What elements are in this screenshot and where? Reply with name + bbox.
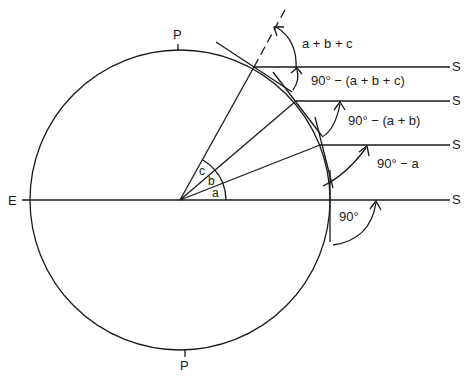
label-pole-top: P (173, 28, 182, 41)
label-sun-2: S (452, 138, 461, 151)
annotation-90: 90° (339, 210, 359, 223)
arrow-arc-90-abc (293, 70, 298, 90)
angle-arc-a (223, 183, 226, 200)
angle-arc-b (215, 170, 223, 183)
annotation-sum-abc: a + b + c (302, 37, 353, 50)
label-pole-bottom: P (180, 359, 189, 372)
radius-abc (180, 67, 254, 200)
label-sun-3: S (452, 94, 461, 107)
annotation-90-minus-abc: 90° − (a + b + c) (311, 74, 405, 87)
annotation-90-minus-a: 90° − a (377, 157, 419, 170)
label-east: E (8, 194, 17, 207)
label-angle-c: c (199, 165, 205, 177)
arrow-arc-sum (276, 27, 296, 70)
radius-extension-dashed (254, 8, 286, 67)
geometry-figure (0, 0, 468, 380)
label-sun-4: S (452, 60, 461, 73)
label-sun-1: S (452, 193, 461, 206)
diagram-canvas: E P P S S S S a b c a + b + c 90° − (a +… (0, 0, 468, 380)
label-angle-a: a (212, 187, 219, 199)
arrow-arc-90-ab (322, 104, 340, 137)
label-angle-b: b (208, 175, 215, 187)
tangent-a (315, 117, 333, 188)
annotation-90-minus-ab: 90° − (a + b) (348, 114, 420, 127)
radius-ab (180, 101, 296, 200)
